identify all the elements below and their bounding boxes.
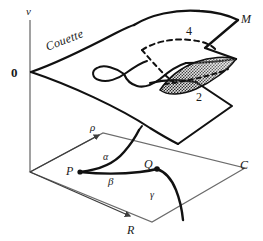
catastrophe-surface-figure: v 0 Couette 4 M 2 ρ α β γ P Q R C (0, 0, 263, 241)
point-P-label: P (66, 165, 73, 177)
figure-canvas (0, 0, 263, 241)
vertical-axis-label: v (26, 6, 31, 17)
control-plane (30, 133, 245, 222)
rho-axis-arrow (30, 135, 99, 172)
upper-sheet-label: 4 (186, 25, 192, 37)
path-alpha-label: α (103, 152, 108, 162)
point-P-dot (77, 169, 82, 174)
path-gamma-label: γ (150, 190, 154, 200)
swallowtail-loop (93, 61, 147, 81)
path-gamma (157, 169, 183, 220)
point-Q-label: Q (144, 158, 153, 170)
control-axis-arrows (30, 135, 130, 216)
point-Q-dot (154, 166, 160, 172)
rho-axis-label: ρ (90, 122, 95, 133)
path-alpha (80, 130, 139, 172)
R-axis-arrow (30, 172, 130, 216)
shaded-cusp-region (160, 57, 236, 94)
path-beta-label: β (108, 176, 113, 187)
origin-label: 0 (11, 66, 18, 79)
lower-sheet-label: 2 (196, 91, 202, 103)
corner-C-label: C (240, 159, 248, 171)
vertex-M-label: M (241, 13, 251, 25)
R-axis-label: R (127, 224, 134, 236)
